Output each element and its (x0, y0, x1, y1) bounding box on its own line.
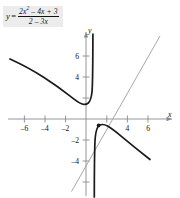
y-tick-label-neg4: –4 (63, 157, 79, 166)
equation-denominator: 2 – 3x (28, 17, 49, 25)
equation-numerator: 2x2 – 4x + 3 (18, 8, 59, 16)
x-tick-label-6: 6 (140, 124, 156, 133)
y-tick-label-6: 6 (63, 52, 79, 61)
graph-figure: y = 2x2 – 4x + 3 2 – 3x x y –6 –4 –2 4 6… (0, 0, 180, 198)
y-axis-label: y (88, 26, 92, 35)
local-max-point (97, 124, 101, 128)
x-tick-label-neg2: –2 (58, 124, 74, 133)
x-tick-label-neg4: –4 (37, 124, 53, 133)
equation-lhs: y (6, 12, 10, 21)
equation-fraction: 2x2 – 4x + 3 2 – 3x (18, 8, 59, 25)
curve-left-branch (10, 34, 93, 104)
y-tick-label-4: 4 (63, 73, 79, 82)
y-tick-label-neg2: –2 (63, 136, 79, 145)
x-tick-label-neg6: –6 (16, 124, 32, 133)
slant-asymptote-line (72, 36, 161, 192)
x-axis-label: x (168, 110, 172, 119)
numerator-term-b: – 4x + 3 (29, 7, 57, 16)
curve-right-branch (94, 125, 150, 197)
equation-label: y = 2x2 – 4x + 3 2 – 3x (3, 6, 63, 27)
equation-equals-sign: = (11, 12, 16, 21)
axis-lines (8, 32, 172, 196)
x-tick-label-4: 4 (119, 124, 135, 133)
